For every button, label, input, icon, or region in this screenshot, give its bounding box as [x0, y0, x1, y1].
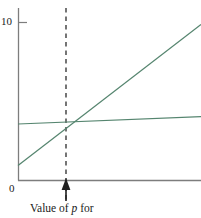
y-axis-tick-label-10: 10	[1, 16, 12, 27]
threshold-arrow-icon	[62, 178, 71, 190]
caption-suffix: for	[77, 202, 93, 214]
x-axis-caption: Value of p for	[30, 203, 94, 215]
plot-area	[0, 0, 201, 218]
chart-figure: 10 0 Value of p for	[0, 0, 201, 218]
series-line-steep	[18, 25, 201, 166]
caption-prefix: Value of	[30, 202, 72, 214]
series-line-flat	[18, 117, 201, 125]
origin-label: 0	[9, 183, 15, 194]
